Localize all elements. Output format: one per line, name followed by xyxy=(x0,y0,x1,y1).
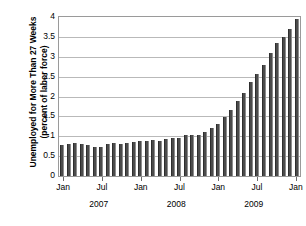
bar xyxy=(288,29,292,176)
bar xyxy=(164,139,168,176)
bar xyxy=(249,82,253,176)
bar xyxy=(119,144,123,176)
x-axis-tick-label: Jan xyxy=(126,182,156,192)
x-axis-tick-label: Jul xyxy=(165,182,195,192)
x-axis-tick-label: Jan xyxy=(281,182,306,192)
y-axis-tick-label: 0.5 xyxy=(31,151,55,159)
bar xyxy=(67,144,71,176)
x-axis-tick-label: Jan xyxy=(203,182,233,192)
bar xyxy=(216,124,220,176)
x-axis-year-label: 2008 xyxy=(156,199,196,209)
bar xyxy=(125,143,129,176)
bar xyxy=(106,144,110,176)
y-axis-tick-label: 4 xyxy=(31,12,55,20)
bar xyxy=(132,142,136,176)
y-axis-tick-label: 3.5 xyxy=(31,32,55,40)
bar xyxy=(158,141,162,176)
bar xyxy=(255,74,259,176)
bar xyxy=(236,101,240,176)
x-axis-tick-label: Jan xyxy=(48,182,78,192)
y-axis-tick-label: 1.5 xyxy=(31,111,55,119)
bar xyxy=(86,145,90,176)
unemployment-bar-chart: Unemployed for More Than 27 Weeks (perce… xyxy=(0,0,306,226)
bar xyxy=(177,138,181,176)
y-axis-tick-label: 1 xyxy=(31,131,55,139)
x-axis-tick-label: Jul xyxy=(242,182,272,192)
x-axis-year-label: 2009 xyxy=(234,199,274,209)
y-axis-tick-label: 2.5 xyxy=(31,72,55,80)
x-axis-year-label: 2007 xyxy=(79,199,119,209)
bar xyxy=(262,65,266,176)
bar xyxy=(223,117,227,176)
bar xyxy=(73,143,77,176)
bar xyxy=(282,37,286,176)
bar xyxy=(210,128,214,176)
bar xyxy=(171,138,175,176)
bar xyxy=(184,135,188,176)
bar xyxy=(138,141,142,176)
y-axis-tick-label: 0 xyxy=(31,171,55,179)
bar xyxy=(151,140,155,176)
bar xyxy=(80,144,84,176)
y-axis-tick-label: 2 xyxy=(31,92,55,100)
bar xyxy=(295,19,299,176)
bar xyxy=(242,93,246,176)
bar xyxy=(275,43,279,176)
y-axis-tick-label: 3 xyxy=(31,52,55,60)
x-axis-tick-mark xyxy=(141,177,142,181)
bar-series xyxy=(59,17,300,176)
x-axis-tick-label: Jul xyxy=(87,182,117,192)
plot-area xyxy=(58,16,301,177)
x-axis-tick-mark xyxy=(102,177,103,181)
y-axis-title: Unemployed for More Than 27 Weeks (perce… xyxy=(0,0,34,182)
bar xyxy=(60,145,64,176)
bar xyxy=(112,143,116,176)
bar xyxy=(145,141,149,176)
x-axis-tick-mark xyxy=(218,177,219,181)
bar xyxy=(99,147,103,176)
bar xyxy=(269,53,273,176)
bar xyxy=(203,132,207,176)
x-axis-tick-mark xyxy=(296,177,297,181)
x-axis-tick-mark xyxy=(63,177,64,181)
x-axis-tick-mark xyxy=(257,177,258,181)
bar xyxy=(197,135,201,176)
x-axis-tick-mark xyxy=(180,177,181,181)
bar xyxy=(93,147,97,176)
bar xyxy=(229,110,233,176)
bar xyxy=(190,135,194,176)
